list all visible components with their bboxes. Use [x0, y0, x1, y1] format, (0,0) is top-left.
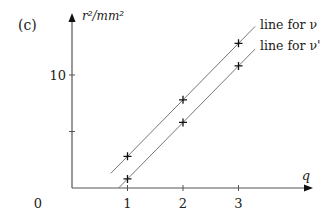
origin-label: 0	[34, 196, 42, 211]
x-axis-arrow-icon	[304, 185, 313, 192]
chart: (c) line for νline for ν' 123100r²/mm²q	[0, 0, 334, 222]
x-tick-label: 1	[123, 196, 131, 211]
y-tick-label: 10	[49, 68, 66, 83]
y-axis-arrow-icon	[69, 13, 76, 22]
y-axis-label: r²/mm²	[82, 9, 124, 23]
x-tick-label: 2	[179, 196, 187, 211]
x-tick-label: 3	[234, 196, 242, 211]
series-1: line for ν'	[119, 38, 321, 188]
x-axis-label: q	[302, 168, 310, 183]
fit-line	[119, 49, 256, 188]
series-group: line for νline for ν'	[111, 17, 321, 188]
series-label: line for ν'	[260, 38, 321, 53]
series-label: line for ν	[260, 17, 317, 32]
panel-label: (c)	[18, 17, 37, 33]
